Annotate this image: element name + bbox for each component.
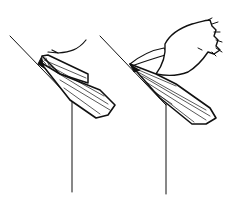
illustration-canvas	[0, 0, 234, 206]
left-bract-curve	[58, 40, 86, 53]
left-bract-tip	[48, 50, 58, 53]
right-flower-bud	[156, 20, 220, 75]
left-figure	[10, 36, 115, 192]
right-figure	[100, 18, 222, 194]
botanical-drawing	[0, 0, 234, 206]
